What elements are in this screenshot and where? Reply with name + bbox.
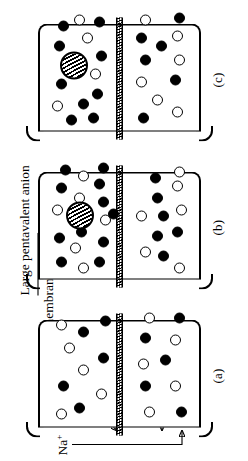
sodium-label-text: Na	[55, 439, 70, 455]
ion-sodium-cation	[94, 178, 105, 189]
donnan-equilibrium-figure: Na+ Cl− Permeable membrane Large pentava…	[0, 0, 248, 461]
ion-chloride-anion	[176, 204, 187, 215]
ion-chloride-anion	[74, 14, 85, 25]
ion-sodium-cation	[98, 352, 109, 363]
ion-chloride-anion	[56, 319, 67, 330]
ion-chloride-anion	[82, 32, 93, 43]
ion-sodium-cation	[176, 406, 187, 417]
ion-sodium-cation	[66, 114, 77, 125]
ion-sodium-cation	[56, 182, 67, 193]
ion-sodium-cation	[56, 256, 67, 267]
permeable-membrane-a	[116, 313, 123, 435]
ion-chloride-anion	[172, 106, 183, 117]
ion-chloride-anion	[64, 342, 75, 353]
vessel-lip-top-c	[26, 125, 40, 141]
ion-sodium-cation	[98, 236, 109, 247]
ion-chloride-anion	[56, 408, 67, 419]
ion-chloride-anion	[144, 312, 155, 323]
ion-chloride-anion	[140, 246, 151, 257]
ion-chloride-anion	[140, 14, 151, 25]
ion-chloride-anion	[78, 364, 89, 375]
ion-sodium-cation	[60, 164, 71, 175]
ion-chloride-anion	[138, 358, 149, 369]
ion-chloride-anion	[96, 388, 107, 399]
ion-sodium-cation	[152, 192, 163, 203]
ion-chloride-anion	[136, 210, 147, 221]
ion-sodium-cation	[140, 332, 151, 343]
ion-sodium-cation	[58, 380, 69, 391]
ion-sodium-cation	[174, 312, 185, 323]
ion-chloride-anion	[152, 94, 163, 105]
ion-sodium-cation	[94, 256, 105, 267]
ion-sodium-cation	[108, 208, 119, 219]
vessel-lip-top-a	[26, 421, 40, 437]
ion-chloride-anion	[136, 76, 147, 87]
ion-chloride-anion	[52, 204, 63, 215]
ion-sodium-cation	[174, 12, 185, 23]
ion-chloride-anion	[78, 170, 89, 181]
ion-sodium-cation	[98, 162, 109, 173]
ion-sodium-cation	[74, 402, 85, 413]
panel-caption-a: (a)	[210, 368, 226, 383]
ion-sodium-cation	[140, 54, 151, 65]
ion-chloride-anion	[144, 406, 155, 417]
ion-chloride-anion	[174, 262, 185, 273]
permeable-membrane-b	[116, 165, 123, 287]
ion-sodium-cation	[88, 112, 99, 123]
ion-chloride-anion	[70, 242, 81, 253]
vessel-panel-a	[38, 319, 201, 437]
figure-rotator: Na+ Cl− Permeable membrane Large pentava…	[0, 0, 248, 461]
ion-sodium-cation	[150, 172, 161, 183]
ion-chloride-anion	[170, 380, 181, 391]
ion-sodium-cation	[158, 250, 169, 261]
ion-sodium-cation	[158, 210, 169, 221]
ion-sodium-cation	[100, 315, 111, 326]
vessel-panel-c	[38, 23, 201, 141]
ion-large-pentavalent-anion	[66, 201, 94, 229]
ion-chloride-anion	[172, 30, 183, 41]
ion-chloride-anion	[52, 100, 63, 111]
vessel-panel-b	[38, 171, 201, 289]
ion-sodium-cation	[170, 74, 181, 85]
ion-chloride-anion	[78, 262, 89, 273]
ion-sodium-cation	[58, 20, 69, 31]
ion-sodium-cation	[94, 16, 105, 27]
ion-chloride-anion	[174, 166, 185, 177]
ion-sodium-cation	[56, 78, 67, 89]
ion-sodium-cation	[140, 380, 151, 391]
panel-caption-c: (c)	[210, 72, 226, 87]
ion-sodium-cation	[54, 232, 65, 243]
ion-sodium-cation	[172, 226, 183, 237]
vessel-lip-bottom-c	[199, 125, 213, 141]
ion-sodium-cation	[156, 40, 167, 51]
ion-sodium-cation	[138, 112, 149, 123]
ion-sodium-cation	[96, 50, 107, 61]
ion-chloride-anion	[174, 54, 185, 65]
ion-sodium-cation	[78, 326, 89, 337]
ion-sodium-cation	[136, 32, 147, 43]
ion-sodium-cation	[54, 40, 65, 51]
ion-sodium-cation	[98, 196, 109, 207]
ion-chloride-anion	[170, 334, 181, 345]
ion-chloride-anion	[90, 68, 101, 79]
ion-sodium-cation	[92, 88, 103, 99]
panel-caption-b: (b)	[210, 219, 226, 235]
ion-chloride-anion	[172, 180, 183, 191]
vessel-lip-bottom-a	[199, 421, 213, 437]
ion-sodium-cation	[78, 98, 89, 109]
vessel-lip-bottom-b	[199, 273, 213, 289]
ion-sodium-cation	[160, 354, 171, 365]
ion-large-pentavalent-anion	[60, 51, 88, 79]
permeable-membrane-c	[116, 17, 123, 139]
ion-sodium-cation	[152, 230, 163, 241]
